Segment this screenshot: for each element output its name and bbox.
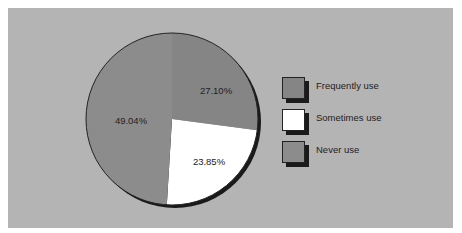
slice-label-frequently: 27.10% (200, 85, 233, 96)
pie-chart: 27.10% 23.85% 49.04% (0, 0, 462, 233)
legend-label: Sometimes use (316, 112, 381, 123)
legend-label: Frequently use (316, 80, 379, 91)
legend-label: Never use (316, 144, 359, 155)
legend-swatch-sometimes-use (282, 109, 305, 131)
slice-label-never: 49.04% (115, 115, 148, 126)
legend-swatch-never-use (282, 141, 305, 163)
slice-label-sometimes: 23.85% (193, 156, 226, 167)
legend-swatch-frequently-use (282, 77, 305, 99)
pie-slice-frequently-use (172, 33, 258, 130)
